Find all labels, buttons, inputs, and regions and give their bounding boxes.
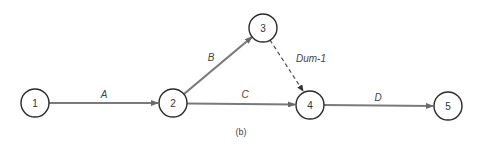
node-5: 5: [434, 92, 462, 120]
node-label-5: 5: [445, 101, 451, 112]
edge-label-d: D: [374, 92, 381, 103]
edge-b: B: [184, 37, 252, 94]
node-2: 2: [159, 89, 187, 117]
node-label-1: 1: [32, 98, 38, 109]
edge-label-a: A: [100, 89, 108, 100]
arrow-dummy-line: [270, 40, 303, 91]
node-1: 1: [21, 89, 49, 117]
node-label-2: 2: [170, 98, 176, 109]
node-label-3: 3: [260, 23, 266, 34]
edge-dummy-1: Dum-1: [270, 40, 326, 91]
edge-label-b: B: [208, 52, 215, 63]
edge-label-dummy: Dum-1: [296, 53, 326, 64]
node-3: 3: [249, 14, 277, 42]
edge-c: C: [187, 89, 295, 105]
arrow-b-line: [184, 37, 252, 94]
node-label-4: 4: [307, 100, 313, 111]
node-4: 4: [296, 91, 324, 119]
network-diagram: A B C Dum-1 D 1 2 3 4 5 (b): [0, 0, 482, 145]
edge-label-c: C: [241, 89, 249, 100]
arrow-c-line: [187, 104, 295, 105]
edge-d: D: [324, 92, 433, 106]
arrow-d-line: [324, 105, 433, 106]
figure-caption: (b): [236, 127, 247, 137]
edge-a: A: [49, 89, 158, 103]
